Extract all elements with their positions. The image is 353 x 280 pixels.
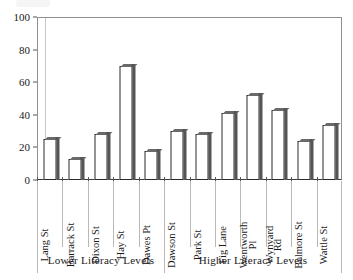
- bar[interactable]: [297, 141, 310, 180]
- category-tick: [139, 177, 140, 181]
- bar[interactable]: [43, 139, 56, 180]
- y-tick-label: 40: [19, 109, 30, 120]
- category-cell: Park St: [190, 181, 215, 247]
- category-tick: [37, 177, 38, 181]
- category-tick: [215, 177, 216, 181]
- bar[interactable]: [272, 110, 285, 180]
- category-tick: [164, 177, 165, 181]
- y-axis: 020406080100: [0, 10, 37, 188]
- group-axis: Lower Literacy LevelsHigher Literacy Lev…: [37, 247, 342, 275]
- category-cell: WentworthPl: [240, 181, 265, 247]
- category-cell: Wattle St: [317, 181, 342, 247]
- bar-slot: [291, 17, 316, 180]
- category-tick: [113, 177, 114, 181]
- bar-slot: [190, 17, 215, 180]
- category-tick: [291, 177, 292, 181]
- category-tick: [190, 177, 191, 181]
- bar-slot: [317, 17, 342, 180]
- bar[interactable]: [221, 113, 234, 180]
- category-cell: Hay St: [113, 181, 138, 247]
- category-tick: [88, 177, 89, 181]
- y-tick-label: 80: [19, 44, 30, 55]
- category-tick: [240, 177, 241, 181]
- bar[interactable]: [247, 95, 260, 180]
- category-cell: Dawes Pt: [139, 181, 164, 247]
- category-cell: WynyardRd: [266, 181, 291, 247]
- group-label: Lower Literacy Levels: [48, 254, 154, 266]
- bar[interactable]: [119, 66, 132, 180]
- bar-slot: [215, 17, 240, 180]
- y-tick-label: 20: [19, 142, 30, 153]
- bar-slot: [62, 17, 87, 180]
- bar-slot: [139, 17, 164, 180]
- category-tick: [62, 177, 63, 181]
- group-cell: Lower Literacy Levels: [37, 247, 164, 273]
- bar-slot: [113, 17, 138, 180]
- bar-slot: [240, 17, 265, 180]
- category-cell: Dixon St: [88, 181, 113, 247]
- category-cell: Lang St: [37, 181, 62, 247]
- category-tick: [317, 177, 318, 181]
- bar[interactable]: [145, 151, 158, 180]
- y-tick-label: 0: [25, 175, 31, 186]
- category-axis: Lang StBarrack StDixon StHay StDawes PtD…: [37, 181, 342, 247]
- bar[interactable]: [69, 159, 82, 180]
- bar[interactable]: [323, 125, 336, 180]
- bar-slot: [88, 17, 113, 180]
- category-cell: Fig Lane: [215, 181, 240, 247]
- scan-artifact: [16, 0, 50, 7]
- category-cell: Barrack St: [62, 181, 87, 247]
- y-tick-label: 60: [19, 77, 30, 88]
- category-cell: Belmore St: [291, 181, 316, 247]
- bar[interactable]: [170, 131, 183, 180]
- group-cell: Higher Literacy Levels: [164, 247, 342, 273]
- bar-slot: [164, 17, 189, 180]
- bar-slot: [266, 17, 291, 180]
- bar-chart: 020406080100 Lang StBarrack StDixon StHa…: [0, 0, 353, 280]
- bar[interactable]: [196, 134, 209, 180]
- bar[interactable]: [94, 134, 107, 180]
- bars-layer: [37, 17, 342, 180]
- group-label: Higher Literacy Levels: [199, 254, 308, 266]
- category-cell: Dawson St: [164, 181, 189, 247]
- y-tick-label: 100: [14, 12, 31, 23]
- category-tick: [266, 177, 267, 181]
- bar-slot: [37, 17, 62, 180]
